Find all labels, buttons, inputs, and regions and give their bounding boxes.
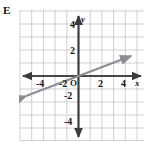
choice-letter-label: E: [3, 5, 10, 16]
x-tick-label-2: 2: [98, 79, 103, 89]
y-tick-label-2: 2: [70, 46, 75, 56]
y-tick-label-neg4: -4: [64, 117, 72, 127]
figure-root: E: [0, 0, 152, 151]
origin-label: O: [70, 79, 77, 88]
x-tick-label-neg2: -2: [59, 79, 67, 89]
x-axis-name: x: [135, 79, 140, 88]
y-tick-label-4: 4: [70, 20, 75, 30]
x-tick-label-4: 4: [121, 79, 126, 89]
y-tick-label-neg2: -2: [64, 91, 72, 101]
coordinate-plane: -4 -2 2 4 4 2 -2 -4 O y x: [19, 9, 145, 142]
y-axis-name: y: [81, 15, 85, 24]
coordinate-plane-svg: [19, 9, 145, 142]
x-tick-label-neg4: -4: [36, 79, 44, 89]
